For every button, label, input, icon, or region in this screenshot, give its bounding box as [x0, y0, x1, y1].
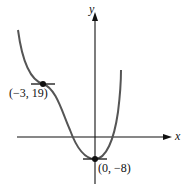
graph-figure: y x (−3, 19) (0, −8): [0, 0, 192, 188]
point-label-2: (0, −8): [98, 161, 131, 176]
x-axis-label: x: [175, 129, 180, 144]
point-label-1: (−3, 19): [9, 86, 48, 101]
y-axis-label: y: [89, 2, 94, 17]
x-axis-arrow-icon: [163, 134, 172, 140]
